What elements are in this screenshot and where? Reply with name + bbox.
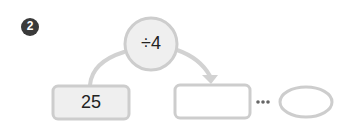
arrow-line <box>177 50 210 76</box>
start-value: 25 <box>53 92 129 113</box>
result-box[interactable] <box>175 85 250 118</box>
arrow-head-icon <box>202 75 218 84</box>
operator-label: ÷4 <box>125 33 177 54</box>
ellipsis-dot <box>266 100 270 104</box>
problem-number: 2 <box>21 19 39 33</box>
remainder-ellipse[interactable] <box>280 87 332 117</box>
ellipsis-dot <box>261 100 265 104</box>
connector-line <box>90 52 124 85</box>
diagram-canvas <box>0 0 350 135</box>
ellipsis-dot <box>256 100 260 104</box>
